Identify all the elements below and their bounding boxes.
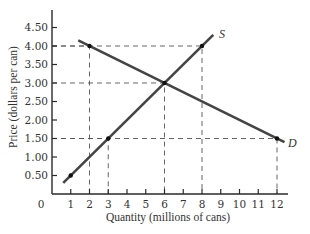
y-tick-label: 1.50 (25, 132, 48, 144)
x-tick-label: 12 (270, 198, 283, 210)
x-axis-title: Quantity (millions of cans) (106, 211, 230, 224)
guide-line (52, 139, 277, 195)
data-point (106, 136, 110, 140)
data-point (69, 173, 73, 177)
data-point (275, 136, 279, 140)
x-tick-label: 11 (252, 198, 265, 210)
data-point (162, 81, 166, 85)
curves (63, 35, 284, 183)
x-tick-label: 1 (67, 198, 74, 210)
marked-points (69, 44, 280, 178)
x-tick-label: 8 (199, 198, 206, 210)
x-tick-label: 10 (233, 198, 246, 210)
x-tick-label: 2 (86, 198, 93, 210)
x-tick-label: 7 (180, 198, 187, 210)
y-tick-label: 3.00 (25, 77, 48, 89)
x-axis: 123456789101112 (52, 189, 288, 210)
x-tick-label: 5 (142, 198, 149, 210)
y-tick-label: 4.00 (25, 40, 48, 52)
data-point (200, 44, 204, 48)
guide-lines (52, 46, 277, 194)
x-tick-label: 6 (161, 198, 168, 210)
supply-curve (63, 35, 213, 183)
y-tick-label: 2.00 (25, 114, 48, 126)
y-tick-label: 4.50 (25, 21, 48, 33)
y-tick-label: 2.50 (25, 95, 48, 107)
guide-line (52, 46, 90, 194)
demand-curve-label: D (287, 136, 297, 150)
origin-label: 0 (38, 198, 45, 210)
supply-curve-label: S (219, 27, 225, 41)
y-tick-label: 0.50 (25, 169, 48, 181)
y-tick-label: 1.00 (25, 151, 48, 163)
y-axis-title: Price (dollars per can) (7, 46, 20, 148)
x-tick-label: 3 (105, 198, 112, 210)
data-point (87, 44, 91, 48)
y-axis: 0.501.001.502.002.503.003.504.004.50 (25, 10, 57, 194)
supply-demand-chart: 0.501.001.502.002.503.003.504.004.50 123… (0, 0, 310, 234)
x-tick-label: 9 (217, 198, 224, 210)
x-tick-label: 4 (124, 198, 131, 210)
demand-curve (78, 40, 284, 142)
y-tick-label: 3.50 (25, 58, 48, 70)
